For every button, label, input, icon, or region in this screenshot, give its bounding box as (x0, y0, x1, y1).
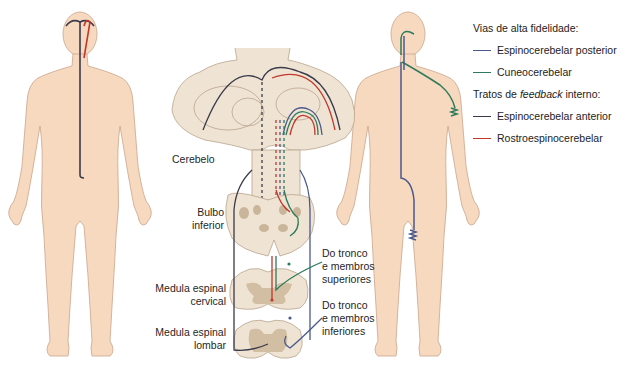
label-inf-line1: Do tronco (322, 299, 375, 312)
legend-item-cuneo: Cuneocerebelar (473, 66, 627, 79)
label-bulbo-line1: Bulbo (168, 206, 224, 219)
label-bulbo-inferior: Bulbo inferior (168, 206, 224, 232)
legend-swatch-posterior (473, 50, 491, 52)
legend-item-posterior: Espinocerebelar posterior (473, 44, 627, 57)
label-cerebelo: Cerebelo (172, 153, 215, 166)
spinocerebellar-pathways-diagram: Cerebelo Bulbo inferior Medula espinal c… (0, 0, 627, 366)
label-lombar-line2: lombar (130, 339, 226, 352)
legend-group-feedback-title: Tratos de feedback interno: (473, 88, 627, 101)
lumbar-cord-section (234, 320, 303, 358)
label-inf-line2: e membros (322, 312, 375, 325)
label-sup-line2: e membros (322, 260, 375, 273)
label-sup-line3: superiores (322, 273, 375, 286)
legend-title-prefix: Tratos de (473, 88, 520, 100)
legend-swatch-anterior (473, 116, 491, 118)
label-cervical-line1: Medula espinal (130, 282, 226, 295)
legend: Vias de alta fidelidade: Espinocerebelar… (473, 22, 627, 154)
legend-group-high-fidelity-title: Vias de alta fidelidade: (473, 22, 627, 35)
legend-label-anterior: Espinocerebelar anterior (497, 110, 611, 123)
label-cervical-line2: cervical (130, 295, 226, 308)
label-inf-line3: inferiores (322, 325, 375, 338)
label-lombar-line1: Medula espinal (130, 326, 226, 339)
label-medula-cervical: Medula espinal cervical (130, 282, 226, 308)
label-membros-inferiores: Do tronco e membros inferiores (322, 299, 375, 338)
legend-title-suffix: interno: (563, 88, 601, 100)
legend-swatch-cuneo (473, 72, 491, 74)
label-membros-superiores: Do tronco e membros superiores (322, 247, 375, 286)
legend-label-cuneo: Cuneocerebelar (497, 66, 572, 79)
legend-item-anterior: Espinocerebelar anterior (473, 110, 627, 123)
label-medula-lombar: Medula espinal lombar (130, 326, 226, 352)
legend-label-posterior: Espinocerebelar posterior (497, 44, 617, 57)
medulla-section (226, 193, 315, 256)
label-sup-line1: Do tronco (322, 247, 375, 260)
legend-item-rostro: Rostroespinocerebelar (473, 132, 627, 145)
legend-swatch-rostro (473, 138, 491, 140)
label-bulbo-line2: inferior (168, 219, 224, 232)
cerebellum (172, 48, 355, 200)
legend-title-em: feedback (520, 88, 563, 100)
legend-label-rostro: Rostroespinocerebelar (497, 132, 603, 145)
